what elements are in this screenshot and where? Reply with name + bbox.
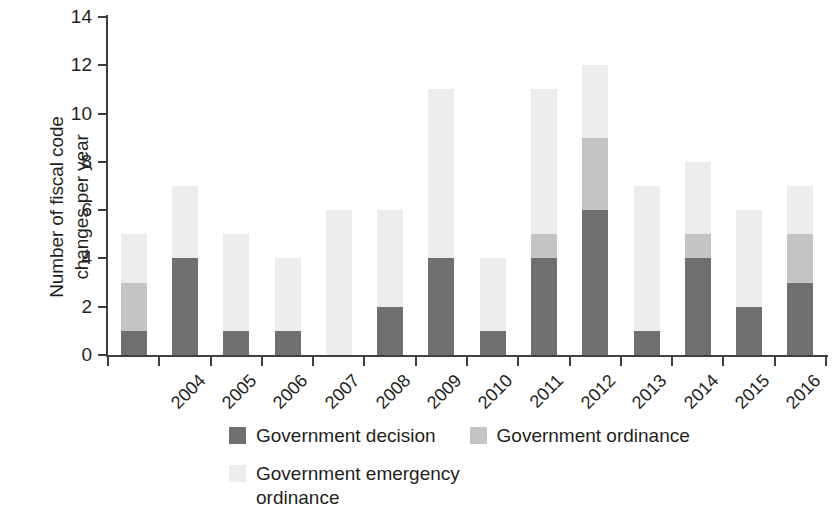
bar-segment bbox=[685, 162, 711, 234]
legend-entry[interactable]: Government decision bbox=[229, 424, 436, 448]
bar-segment bbox=[531, 258, 557, 355]
legend-swatch-icon bbox=[470, 427, 487, 444]
y-tick-mark bbox=[98, 64, 107, 66]
y-tick-mark bbox=[98, 16, 107, 18]
bar-2014 bbox=[634, 186, 660, 355]
chart-legend: Government decisionGovernment ordinance … bbox=[0, 424, 834, 520]
bar-2005 bbox=[172, 186, 198, 355]
bar-segment bbox=[480, 331, 506, 355]
bar-2015 bbox=[685, 162, 711, 355]
y-tick-mark bbox=[98, 113, 107, 115]
y-tick-label: 4 bbox=[34, 248, 92, 267]
y-tick-label-text: 2 bbox=[38, 297, 92, 316]
legend-entry[interactable]: Government emergency ordinance bbox=[229, 462, 460, 510]
bar-segment bbox=[582, 65, 608, 137]
bar-segment bbox=[428, 258, 454, 355]
y-tick-label-text: 10 bbox=[38, 104, 92, 123]
legend-label: Government decision bbox=[256, 424, 436, 448]
legend-row-primary: Government decisionGovernment ordinance bbox=[229, 424, 690, 448]
bar-2004 bbox=[121, 234, 147, 355]
y-tick-label: 12 bbox=[34, 55, 92, 74]
stacked-bar-chart: Number of fiscal code changes per year 0… bbox=[0, 0, 834, 520]
x-tick-label-2011: 2011 bbox=[526, 371, 566, 411]
x-tick-label-2007: 2007 bbox=[321, 371, 362, 412]
bar-segment bbox=[787, 283, 813, 355]
bar-segment bbox=[121, 234, 147, 282]
bar-segment bbox=[172, 186, 198, 258]
bar-segment bbox=[223, 234, 249, 331]
x-tick-mark bbox=[722, 357, 724, 366]
x-tick-label-2009: 2009 bbox=[424, 371, 465, 412]
x-tick-mark bbox=[312, 357, 314, 366]
x-tick-mark bbox=[415, 357, 417, 366]
x-tick-mark bbox=[158, 357, 160, 366]
x-tick-label-2010: 2010 bbox=[475, 371, 516, 412]
x-tick-mark bbox=[210, 357, 212, 366]
x-tick-label-2006: 2006 bbox=[270, 371, 311, 412]
bar-segment bbox=[531, 234, 557, 258]
bar-segment bbox=[377, 307, 403, 355]
x-tick-mark bbox=[671, 357, 673, 366]
bar-2013 bbox=[582, 65, 608, 355]
bar-2007 bbox=[275, 258, 301, 355]
y-tick-label: 8 bbox=[34, 152, 92, 171]
bar-segment bbox=[121, 331, 147, 355]
bar-2009 bbox=[377, 210, 403, 355]
bar-segment bbox=[326, 210, 352, 355]
legend-entry[interactable]: Government ordinance bbox=[470, 424, 690, 448]
bar-segment bbox=[787, 186, 813, 234]
x-tick-label-2016: 2016 bbox=[783, 371, 824, 412]
x-tick-label-2014: 2014 bbox=[680, 371, 721, 412]
legend-row-secondary: Government emergency ordinance bbox=[229, 462, 460, 510]
bar-segment bbox=[685, 258, 711, 355]
x-tick-mark bbox=[825, 357, 827, 366]
y-tick-label: 2 bbox=[34, 297, 92, 316]
bar-segment bbox=[428, 89, 454, 258]
bar-segment bbox=[275, 258, 301, 330]
y-tick-mark bbox=[98, 354, 107, 356]
bar-segment bbox=[172, 258, 198, 355]
x-tick-mark bbox=[261, 357, 263, 366]
y-tick-label-text: 0 bbox=[38, 345, 92, 364]
y-tick-label-text: 12 bbox=[38, 55, 92, 74]
bar-segment bbox=[634, 331, 660, 355]
x-tick-label-2005: 2005 bbox=[219, 371, 260, 412]
bar-segment bbox=[685, 234, 711, 258]
x-tick-label-2015: 2015 bbox=[732, 371, 773, 412]
legend-swatch-icon bbox=[229, 465, 246, 482]
bar-2011 bbox=[480, 258, 506, 355]
x-tick-mark bbox=[363, 357, 365, 366]
x-tick-mark bbox=[569, 357, 571, 366]
y-tick-label-text: 4 bbox=[38, 248, 92, 267]
legend-swatch-icon bbox=[229, 427, 246, 444]
legend-label: Government emergency ordinance bbox=[256, 462, 460, 510]
bar-2008 bbox=[326, 210, 352, 355]
x-tick-mark bbox=[107, 357, 109, 366]
x-tick-mark bbox=[517, 357, 519, 366]
plot-area bbox=[108, 17, 826, 355]
bar-2010 bbox=[428, 89, 454, 355]
y-tick-label-text: 8 bbox=[38, 152, 92, 171]
y-tick-mark bbox=[98, 257, 107, 259]
x-tick-mark bbox=[620, 357, 622, 366]
x-tick-mark bbox=[466, 357, 468, 366]
bar-segment bbox=[377, 210, 403, 307]
y-tick-label: 14 bbox=[34, 7, 92, 26]
bar-segment bbox=[275, 331, 301, 355]
y-tick-mark bbox=[98, 306, 107, 308]
y-tick-label-text: 6 bbox=[38, 200, 92, 219]
bar-segment bbox=[582, 138, 608, 210]
y-tick-label: 0 bbox=[34, 345, 92, 364]
bar-segment bbox=[480, 258, 506, 330]
bar-segment bbox=[736, 210, 762, 307]
bar-2016 bbox=[736, 210, 762, 355]
bar-segment bbox=[787, 234, 813, 282]
bar-segment bbox=[582, 210, 608, 355]
bar-2017 bbox=[787, 186, 813, 355]
bar-2006 bbox=[223, 234, 249, 355]
x-tick-label-2012: 2012 bbox=[578, 371, 619, 412]
y-tick-label-text: 14 bbox=[38, 7, 92, 26]
bar-segment bbox=[634, 186, 660, 331]
y-tick-mark bbox=[98, 161, 107, 163]
bar-segment bbox=[736, 307, 762, 355]
